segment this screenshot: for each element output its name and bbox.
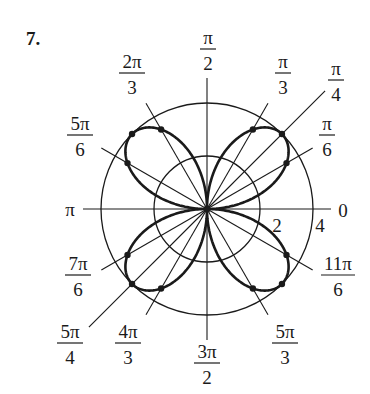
svg-text:2: 2 — [202, 367, 212, 388]
pole-point — [204, 206, 211, 213]
radial-label-2: 2 — [272, 215, 282, 236]
svg-text:6: 6 — [73, 279, 83, 300]
svg-text:6: 6 — [333, 279, 343, 300]
svg-text:4: 4 — [65, 347, 75, 368]
svg-text:π: π — [203, 27, 213, 48]
svg-text:2π: 2π — [122, 51, 142, 72]
svg-text:5π: 5π — [70, 113, 90, 134]
point-210deg — [124, 252, 130, 258]
label-pi-over-2: π2 — [200, 27, 216, 74]
svg-text:3: 3 — [278, 77, 288, 98]
point-240deg — [158, 285, 164, 291]
point-60deg — [250, 126, 256, 132]
svg-text:π: π — [278, 51, 288, 72]
label-pi-over-3: π3 — [275, 51, 291, 98]
polar-rose-figure: 7. π2π3π4π62π35π67π65π44π33π25π311π6π024 — [0, 0, 370, 394]
label-pi-over-4: π4 — [328, 58, 344, 105]
svg-text:3: 3 — [280, 347, 290, 368]
point-225deg — [129, 281, 135, 287]
label-2pi-over-3: 2π3 — [119, 51, 145, 98]
point-315deg — [279, 281, 285, 287]
point-45deg — [279, 131, 285, 137]
label-3pi-over-2: 3π2 — [194, 341, 220, 388]
svg-text:3π: 3π — [197, 341, 217, 362]
svg-text:6: 6 — [75, 139, 85, 160]
svg-text:7π: 7π — [68, 253, 88, 274]
label-5pi-over-6: 5π6 — [67, 113, 93, 160]
svg-text:3: 3 — [123, 347, 133, 368]
svg-text:2: 2 — [203, 53, 213, 74]
label-pi-over-6: π6 — [319, 113, 335, 160]
label-5pi-over-4: 5π4 — [57, 321, 83, 368]
svg-text:π: π — [322, 113, 332, 134]
problem-number: 7. — [26, 28, 40, 49]
svg-text:3: 3 — [127, 77, 137, 98]
axis-label-zero: 0 — [338, 200, 348, 221]
label-11pi-over-6: 11π6 — [321, 253, 355, 300]
svg-text:4: 4 — [331, 84, 341, 105]
svg-text:11π: 11π — [324, 253, 352, 274]
svg-text:5π: 5π — [275, 321, 295, 342]
svg-text:4π: 4π — [118, 321, 138, 342]
svg-text:π: π — [331, 58, 341, 79]
point-30deg — [283, 160, 289, 166]
svg-text:6: 6 — [322, 139, 332, 160]
point-150deg — [124, 160, 130, 166]
label-5pi-over-3: 5π3 — [272, 321, 298, 368]
radial-label-4: 4 — [315, 215, 325, 236]
point-120deg — [158, 126, 164, 132]
label-4pi-over-3: 4π3 — [115, 321, 141, 368]
point-135deg — [129, 131, 135, 137]
point-330deg — [283, 252, 289, 258]
axis-label-pi: π — [65, 199, 75, 220]
label-7pi-over-6: 7π6 — [65, 253, 91, 300]
point-300deg — [250, 285, 256, 291]
svg-text:5π: 5π — [60, 321, 80, 342]
